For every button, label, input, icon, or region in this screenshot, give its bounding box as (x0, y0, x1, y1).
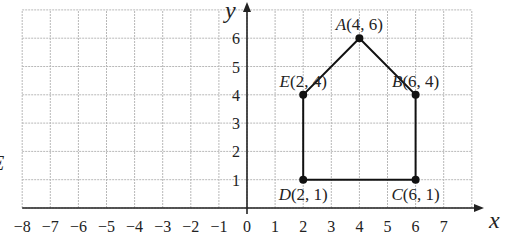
y-axis-label: y (223, 0, 236, 23)
x-tick-label: 6 (412, 218, 420, 235)
x-tick-label: 1 (271, 218, 279, 235)
point-E (299, 91, 307, 99)
x-tick-label: 0 (243, 218, 251, 235)
coordinate-plane: −8−7−6−5−4−3−2−101234567123456 A(4, 6)B(… (0, 0, 511, 249)
x-tick-label: −6 (70, 218, 87, 235)
y-tick-label: 4 (232, 87, 240, 104)
x-tick-label: −3 (154, 218, 171, 235)
x-tick-label: 7 (440, 218, 448, 235)
x-tick-label: −8 (14, 218, 31, 235)
y-tick-label: 6 (232, 30, 240, 47)
x-tick-label: −7 (42, 218, 59, 235)
y-tick-label: 5 (232, 59, 240, 76)
y-tick-label: 2 (232, 143, 240, 160)
x-tick-label: 2 (299, 218, 307, 235)
y-tick-label: 1 (232, 172, 240, 189)
x-tick-label: −4 (126, 218, 143, 235)
point-B (412, 91, 420, 99)
point-C (412, 176, 420, 184)
x-tick-label: 4 (355, 218, 363, 235)
point-label-B: B(6, 4) (392, 72, 439, 91)
x-tick-label: 5 (384, 218, 392, 235)
point-label-C: C(6, 1) (392, 185, 440, 204)
x-tick-label: 3 (327, 218, 335, 235)
y-tick-label: 3 (232, 115, 240, 132)
point-label-D: D(2, 1) (278, 185, 328, 204)
point-A (355, 34, 363, 42)
point-D (299, 176, 307, 184)
x-tick-label: −5 (98, 218, 115, 235)
x-axis-label: x (488, 207, 500, 233)
point-label-E: E(2, 4) (279, 72, 327, 91)
point-label-A: A(4, 6) (335, 15, 383, 34)
margin-letter: E (0, 152, 4, 174)
x-tick-label: −2 (182, 218, 199, 235)
x-tick-label: −1 (210, 218, 227, 235)
